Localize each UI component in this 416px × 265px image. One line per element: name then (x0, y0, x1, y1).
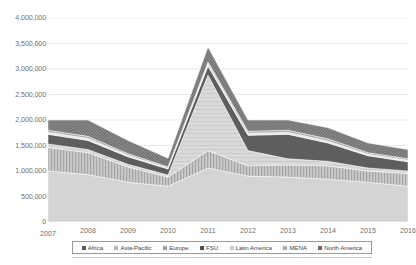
legend-item[interactable]: North America (318, 244, 362, 251)
legend-swatch-icon (82, 246, 86, 250)
legend-item-label: FSU (206, 244, 218, 251)
legend-item[interactable]: FSU (200, 244, 218, 251)
legend-item[interactable]: Africa (82, 244, 103, 251)
x-axis-tick-label: 2015 (360, 227, 376, 235)
legend-item[interactable]: Europe (163, 244, 188, 251)
x-axis-tick-label: 2011 (200, 227, 215, 235)
legend-swatch-icon (200, 246, 204, 250)
x-axis-tick-label: 2008 (80, 227, 96, 235)
legend-item-label: Africa (88, 244, 103, 251)
legend-swatch-icon (163, 246, 167, 250)
x-axis-tick-label: 2009 (120, 227, 136, 235)
legend-swatch-icon (318, 246, 322, 250)
legend-swatch-icon (230, 246, 234, 250)
legend-item-label: Europe (169, 244, 188, 251)
legend-swatch-icon (283, 246, 287, 250)
x-axis-tick-label: 2016 (400, 227, 416, 235)
x-axis-tick-label: 2014 (320, 227, 336, 235)
legend-item-label: Asia-Pacific (120, 244, 151, 251)
legend-item[interactable]: MENA (283, 244, 306, 251)
legend-item-label: Latin America (236, 244, 272, 251)
x-axis-tick-label: 2007 (40, 230, 56, 238)
legend-item-label: MENA (289, 244, 306, 251)
legend-item[interactable]: Latin America (230, 244, 272, 251)
chart-legend: AfricaAsia-PacificEuropeFSULatin America… (72, 241, 372, 254)
legend-item[interactable]: Asia-Pacific (114, 244, 151, 251)
x-axis-tick-label: 2012 (240, 227, 256, 235)
legend-swatch-icon (114, 246, 118, 250)
x-axis-tick-label: 2013 (280, 227, 296, 235)
legend-item-label: North America (324, 244, 362, 251)
x-axis-tick-label: 2010 (160, 227, 176, 235)
legend-bottom-rule (72, 257, 372, 258)
